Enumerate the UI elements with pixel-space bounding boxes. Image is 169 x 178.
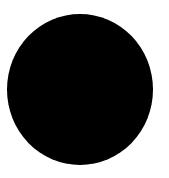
- black-circle-icon: [0, 0, 169, 178]
- black-circle: [7, 14, 153, 165]
- canvas: [0, 0, 169, 178]
